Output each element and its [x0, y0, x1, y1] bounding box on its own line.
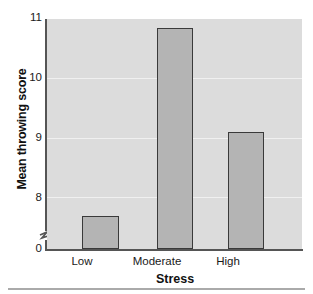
bar-high	[228, 132, 264, 250]
bar-moderate	[157, 28, 193, 249]
y-tick-label-8: 8	[0, 192, 42, 204]
y-axis-tick-labels: 11 10 9 8 0	[0, 0, 42, 294]
bar-low	[82, 216, 119, 249]
x-axis-line	[47, 249, 303, 251]
x-axis-title: Stress	[47, 272, 303, 286]
bar-chart-figure: Mean throwing score 11 10 9 8 0 Low Mode…	[0, 0, 313, 294]
y-tick-label-11: 11	[0, 12, 42, 24]
y-tick-label-10: 10	[0, 72, 42, 84]
plot-area	[47, 19, 302, 249]
y-tick-label-9: 9	[0, 132, 42, 144]
bottom-divider	[8, 288, 305, 290]
x-tick-label-high: High	[183, 255, 273, 267]
y-tick-label-0: 0	[0, 243, 42, 255]
